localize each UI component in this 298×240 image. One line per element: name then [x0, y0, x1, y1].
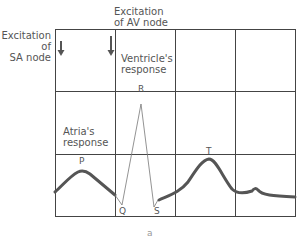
av-node-label-line1: Excitation [114, 6, 168, 17]
sa-node-label: Excitation of SA node [0, 30, 51, 63]
av-node-label-line2: of AV node [114, 17, 168, 28]
sa-node-label-line2: of [0, 41, 51, 52]
sa-node-label-line1: Excitation [0, 30, 51, 41]
ventricle-label-line1: Ventricle's [121, 53, 173, 64]
sa-node-label-line3: SA node [0, 52, 51, 63]
figure-label: a [147, 228, 153, 239]
atria-response-label: Atria's response [63, 126, 108, 148]
ventricle-response-label: Ventricle's response [121, 53, 173, 75]
t-wave-label: T [206, 146, 212, 157]
r-wave-label: R [138, 84, 144, 95]
grid [55, 29, 296, 217]
p-wave-label: P [79, 156, 84, 167]
ventricle-label-line2: response [121, 64, 173, 75]
q-wave-label: Q [119, 206, 126, 217]
sa-node-arrow [58, 41, 65, 56]
qrs-complex-trace [115, 104, 158, 207]
av-node-arrow [108, 36, 115, 56]
t-wave-trace [159, 159, 295, 200]
av-node-label: Excitation of AV node [114, 6, 168, 28]
p-wave-trace [55, 171, 115, 195]
atria-label-line1: Atria's [63, 126, 108, 137]
atria-label-line2: response [63, 137, 108, 148]
s-wave-label: S [154, 206, 160, 217]
